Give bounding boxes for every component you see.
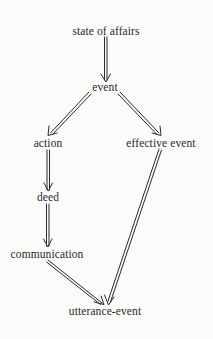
concept-hierarchy-diagram: state of affairs event action effective … — [0, 0, 213, 339]
edge-communication-to-utterance-event — [47, 260, 105, 305]
node-state-of-affairs: state of affairs — [72, 25, 139, 37]
edge-deed-to-communication — [44, 204, 53, 247]
node-effective-event: effective event — [126, 137, 195, 149]
edges-layer — [0, 0, 213, 339]
node-event: event — [92, 81, 117, 93]
node-action: action — [34, 137, 63, 149]
node-communication: communication — [11, 248, 84, 260]
node-deed: deed — [37, 191, 59, 203]
edge-state-of-affairs-to-event — [101, 37, 111, 82]
node-utterance-event: utterance-event — [69, 305, 141, 317]
edge-action-to-deed — [44, 150, 53, 191]
edge-event-to-action — [48, 92, 91, 136]
edge-event-to-effective-event — [118, 92, 161, 136]
edge-effective-event-to-utterance-event — [105, 149, 162, 305]
